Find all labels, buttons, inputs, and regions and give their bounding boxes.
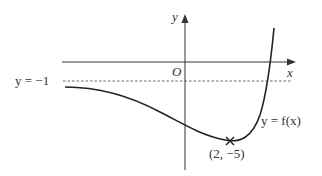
function-graph: y x O y = −1 y = f(x) (2, −5) — [0, 0, 322, 176]
minimum-point-label: (2, −5) — [209, 146, 245, 161]
x-axis-label: x — [286, 65, 293, 80]
curve-label: y = f(x) — [261, 113, 301, 128]
origin-label: O — [172, 64, 182, 79]
asymptote-label: y = −1 — [15, 73, 49, 88]
y-axis-label: y — [170, 9, 178, 24]
curve-f — [65, 28, 274, 141]
y-axis-arrow-icon — [182, 14, 189, 23]
